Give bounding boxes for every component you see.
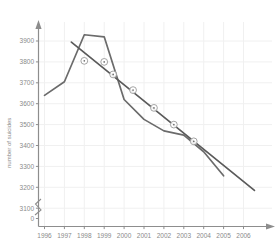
y-tick-label: 3800 bbox=[20, 58, 35, 65]
y-axis-label: number of suicides bbox=[6, 118, 12, 168]
y-tick-label: 3300 bbox=[20, 163, 35, 170]
trend-point-marker bbox=[110, 71, 117, 78]
trend-point-marker bbox=[130, 87, 137, 94]
x-tick-label: 1999 bbox=[97, 232, 112, 239]
x-tick-label: 1997 bbox=[57, 232, 72, 239]
x-tick-label: 1998 bbox=[77, 232, 92, 239]
trend-point-marker bbox=[101, 59, 108, 66]
trend-point-marker bbox=[170, 121, 177, 128]
x-tick-label: 2004 bbox=[196, 232, 211, 239]
line-chart: 0310032003300340035003600370038003900 19… bbox=[0, 0, 280, 252]
trend-point-marker bbox=[190, 138, 197, 145]
chart-background bbox=[0, 0, 280, 252]
x-tick-label: 2005 bbox=[216, 232, 231, 239]
x-tick-label: 2003 bbox=[177, 232, 192, 239]
y-tick-label: 3400 bbox=[20, 142, 35, 149]
x-tick-label: 2002 bbox=[157, 232, 172, 239]
x-tick-label: 2001 bbox=[137, 232, 152, 239]
y-tick-label: 3200 bbox=[20, 184, 35, 191]
y-tick-label: 3700 bbox=[20, 79, 35, 86]
trend-point-marker bbox=[81, 57, 88, 64]
y-tick-label: 3600 bbox=[20, 100, 35, 107]
x-tick-label: 1996 bbox=[37, 232, 52, 239]
x-tick-label: 2006 bbox=[236, 232, 251, 239]
trend-point-marker bbox=[151, 104, 158, 111]
y-tick-label: 0 bbox=[30, 215, 34, 222]
y-tick-label: 3900 bbox=[20, 37, 35, 44]
chart-container: 0310032003300340035003600370038003900 19… bbox=[0, 0, 280, 252]
y-tick-label: 3100 bbox=[20, 205, 35, 212]
y-tick-label: 3500 bbox=[20, 121, 35, 128]
x-tick-label: 2000 bbox=[117, 232, 132, 239]
